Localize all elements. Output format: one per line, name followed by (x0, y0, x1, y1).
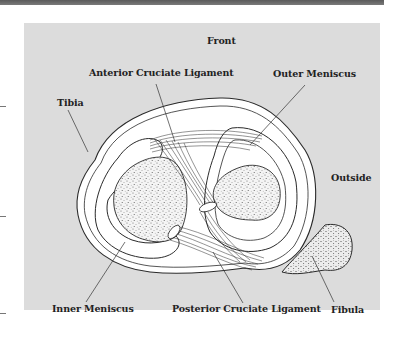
label-anterior-cruciate-ligament: Anterior Cruciate Ligament (89, 67, 234, 78)
label-fibula: Fibula (331, 304, 364, 315)
label-posterior-cruciate-ligament: Posterior Cruciate Ligament (172, 303, 321, 314)
label-outer-meniscus: Outer Meniscus (273, 68, 356, 79)
label-tibia: Tibia (57, 97, 84, 108)
label-inner-meniscus: Inner Meniscus (52, 303, 134, 314)
leader-tibia (68, 110, 88, 152)
label-front: Front (207, 35, 236, 46)
label-outside: Outside (331, 172, 372, 183)
